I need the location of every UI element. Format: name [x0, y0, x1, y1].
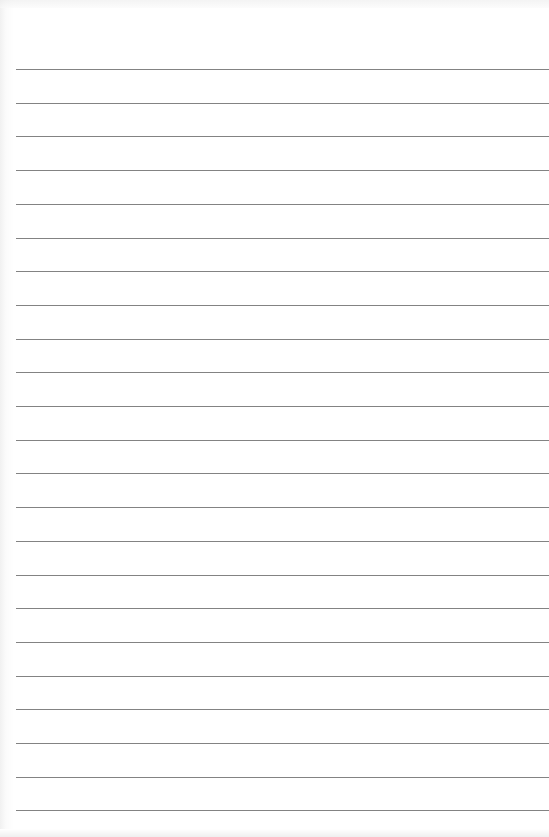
- ruled-line: [16, 204, 549, 205]
- top-edge-shadow: [0, 0, 549, 8]
- ruled-line: [16, 305, 549, 306]
- ruled-line: [16, 642, 549, 643]
- ruled-line: [16, 608, 549, 609]
- ruled-line: [16, 136, 549, 137]
- ruled-line: [16, 372, 549, 373]
- ruled-line: [16, 777, 549, 778]
- ruled-line: [16, 103, 549, 104]
- ruled-line: [16, 709, 549, 710]
- ruled-line: [16, 541, 549, 542]
- ruled-line: [16, 170, 549, 171]
- ruled-line: [16, 406, 549, 407]
- ruled-line: [16, 238, 549, 239]
- bottom-edge-shadow: [0, 829, 549, 837]
- ruled-line: [16, 339, 549, 340]
- lined-paper-sheet: [0, 0, 549, 837]
- ruled-line: [16, 69, 549, 70]
- ruled-line: [16, 271, 549, 272]
- ruled-line: [16, 810, 549, 811]
- ruled-line: [16, 575, 549, 576]
- ruled-line: [16, 440, 549, 441]
- ruled-line: [16, 676, 549, 677]
- ruled-line: [16, 507, 549, 508]
- ruled-line: [16, 473, 549, 474]
- ruled-line: [16, 743, 549, 744]
